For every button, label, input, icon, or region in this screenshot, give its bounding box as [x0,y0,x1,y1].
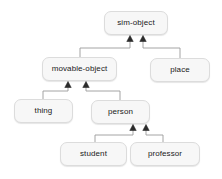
node-label-movable-object: movable-object [52,65,108,73]
node-thing[interactable]: thing [14,99,73,123]
node-movable-object[interactable]: movable-object [42,57,117,81]
node-place[interactable]: place [150,58,210,82]
node-label-place: place [170,66,190,74]
node-label-person: person [108,108,133,116]
node-label-student: student [80,150,107,158]
node-label-professor: professor [148,150,182,158]
node-sim-object[interactable]: sim-object [104,11,168,35]
node-label-thing: thing [35,107,53,115]
node-professor[interactable]: professor [130,142,200,166]
class-hierarchy-diagram: sim-object movable-object place thing pe… [0,0,222,179]
node-student[interactable]: student [60,142,127,166]
node-label-sim-object: sim-object [117,19,154,27]
node-person[interactable]: person [91,100,150,124]
